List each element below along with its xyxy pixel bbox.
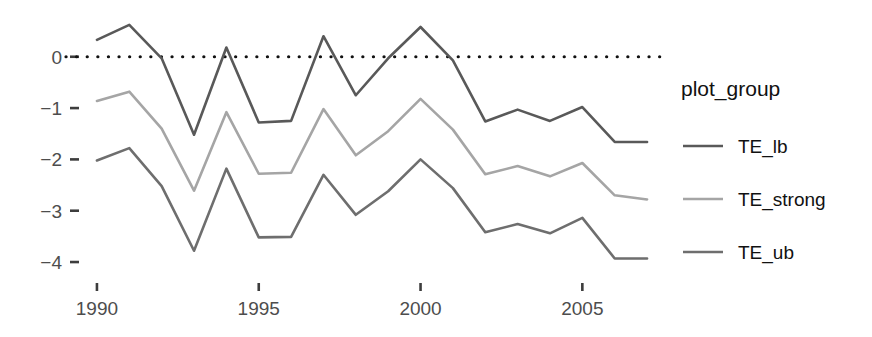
x-tick-label: 2005 [561, 298, 603, 319]
line-chart-figure: 0−1−2−3−4 1990199520002005 plot_group TE… [0, 0, 872, 337]
x-tick-label: 1995 [238, 298, 280, 319]
legend-title: plot_group [681, 77, 780, 101]
x-tick-label: 1990 [76, 298, 118, 319]
legend-label-te_lb[interactable]: TE_lb [738, 136, 788, 158]
legend-label-te_strong[interactable]: TE_strong [738, 189, 826, 211]
y-tick-label: 0 [51, 47, 62, 68]
y-tick-label: −3 [40, 201, 62, 222]
legend-label-te_ub[interactable]: TE_ub [738, 242, 794, 264]
y-tick-label: −4 [40, 252, 62, 273]
x-tick-label: 2000 [399, 298, 441, 319]
y-tick-label: −2 [40, 149, 62, 170]
y-tick-label: −1 [40, 98, 62, 119]
